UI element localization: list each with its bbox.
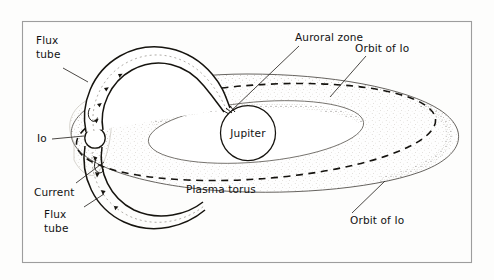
label-orbit-of-io-top: Orbit of Io (355, 42, 409, 54)
jupiter-label: Jupiter (229, 127, 266, 139)
label-plasma-torus: Plasma torus (186, 183, 256, 195)
figure-root: Jupiter (0, 0, 494, 280)
label-flux-tube-bottom-line1: Flux (44, 208, 66, 220)
label-io: Io (37, 132, 47, 144)
label-flux-tube-top-line1: Flux (36, 34, 58, 46)
label-auroral-zone: Auroral zone (295, 31, 363, 43)
label-orbit-of-io-bottom: Orbit of Io (350, 214, 404, 226)
label-current: Current (34, 186, 75, 198)
label-flux-tube-top-line2: tube (36, 48, 61, 60)
jupiter-io-torus-diagram: Jupiter (0, 0, 494, 280)
label-flux-tube-bottom-line2: tube (44, 222, 69, 234)
